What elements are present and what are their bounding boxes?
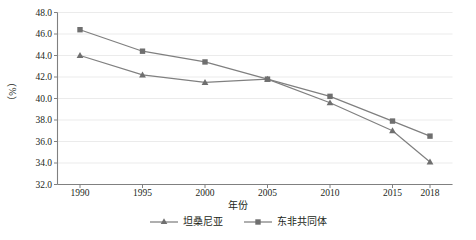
x-axis-tick-label: 1990 — [57, 188, 103, 199]
legend-marker-square-icon — [243, 216, 273, 228]
legend-label-series-0: 坦桑尼亚 — [183, 216, 223, 228]
series-line-0 — [80, 56, 430, 162]
data-point[interactable] — [390, 118, 395, 123]
legend-label-series-1: 东非共同体 — [277, 216, 327, 228]
x-axis-title: 年份 — [0, 200, 476, 211]
x-axis-tick-label: 2018 — [407, 188, 453, 199]
x-axis-tick-label: 1995 — [120, 188, 166, 199]
legend-item-series-0[interactable]: 坦桑尼亚 — [149, 216, 223, 228]
data-point[interactable] — [427, 133, 432, 138]
data-point[interactable] — [265, 76, 270, 81]
data-point[interactable] — [77, 52, 84, 58]
data-point[interactable] — [327, 94, 332, 99]
x-axis-tick-label: 2005 — [245, 188, 291, 199]
legend-marker-triangle-icon — [149, 216, 179, 228]
data-point[interactable] — [140, 49, 145, 54]
data-point[interactable] — [77, 27, 82, 32]
chart-figure: （%） 48.046.044.042.040.038.036.034.032.0… — [0, 0, 476, 240]
chart-legend: 坦桑尼亚 东非共同体 — [0, 216, 476, 228]
legend-item-series-1[interactable]: 东非共同体 — [243, 216, 327, 228]
x-axis-tick-label: 2010 — [307, 188, 353, 199]
data-point[interactable] — [202, 59, 207, 64]
x-axis-tick-label: 2000 — [182, 188, 228, 199]
